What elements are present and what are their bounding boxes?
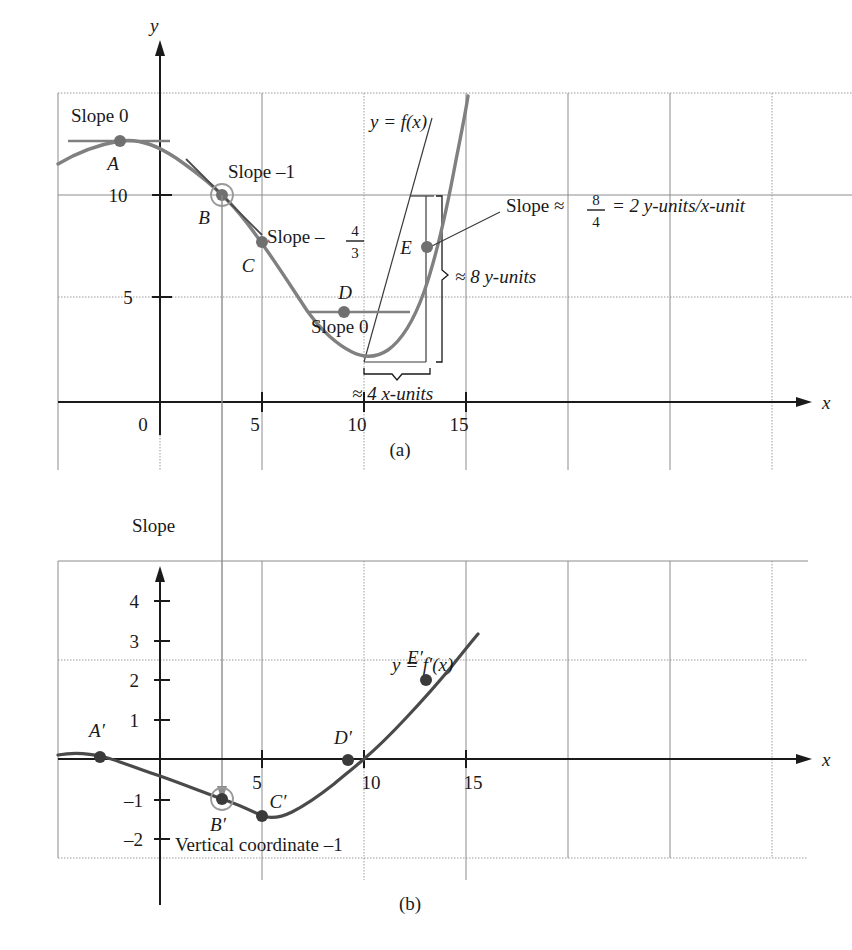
panel-b-ytick-2: 2 [130,670,140,691]
panel-b-ytick-neg2: –2 [123,829,143,850]
panel-b-ytick-1: 1 [130,710,140,731]
point-label-Eprime: E′ [406,647,424,668]
point-label-Aprime: A′ [87,720,106,741]
point-Dprime-marker[interactable] [342,754,354,766]
panel-b-caption: (b) [399,893,421,915]
panel-b-ytick-4: 4 [130,591,140,612]
panel-b-x-axis: x [58,749,831,770]
figure-page: y x 10 5 0 5 10 15 [0,0,852,950]
panel-b-xtick-10: 10 [362,772,381,793]
panel-b-grid-horizontal [58,561,808,858]
panel-b-ytick-3: 3 [130,631,140,652]
point-label-Bprime: B′ [210,814,227,835]
panel-b-xtick-15: 15 [464,772,483,793]
point-Cprime-marker[interactable] [256,810,268,822]
panel-b-y-ticks: 4 3 2 1 –1 –2 [123,591,170,850]
panel-b-chart: Slope x 4 3 2 1 –1 –2 5 [0,0,852,950]
panel-b-ytick-neg1: –1 [123,790,143,811]
panel-b-points [94,674,432,822]
point-Aprime-marker[interactable] [94,751,106,763]
point-Eprime-marker[interactable] [420,674,432,686]
panel-b-xlabel: x [821,749,831,770]
panel-b-ylabel: Slope [132,515,175,536]
point-Bprime-marker[interactable] [216,793,228,805]
point-label-Cprime: C′ [270,791,288,812]
panel-b-xtick-5: 5 [252,772,262,793]
point-label-Dprime: D′ [333,727,353,748]
vertical-coordinate-note: Vertical coordinate –1 [175,834,343,855]
